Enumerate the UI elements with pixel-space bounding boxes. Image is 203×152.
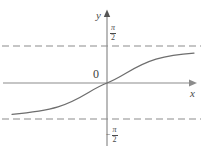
- lower-asymptote-numerator: π: [112, 126, 118, 134]
- origin-label: 0: [93, 68, 99, 80]
- x-axis-arrowhead: [189, 80, 197, 87]
- x-axis-label: x: [190, 88, 195, 99]
- plot-canvas: [0, 0, 203, 152]
- x-axis: [3, 80, 197, 87]
- lower-asymptote-denominator: 2: [112, 136, 118, 144]
- y-axis-arrowhead: [104, 10, 110, 18]
- arctan-curve: [12, 53, 194, 114]
- y-axis-label: y: [96, 10, 101, 21]
- lower-asymptote-label: − π 2: [106, 126, 118, 144]
- upper-asymptote-fraction: π 2: [110, 24, 116, 42]
- upper-asymptote-label: π 2: [109, 24, 116, 42]
- upper-asymptote-numerator: π: [110, 24, 116, 32]
- lower-asymptote-sign: −: [106, 131, 111, 139]
- lower-asymptote-fraction: π 2: [112, 126, 118, 144]
- arctan-graph-figure: y x 0 π 2 − π 2: [0, 0, 203, 152]
- upper-asymptote-denominator: 2: [110, 34, 116, 42]
